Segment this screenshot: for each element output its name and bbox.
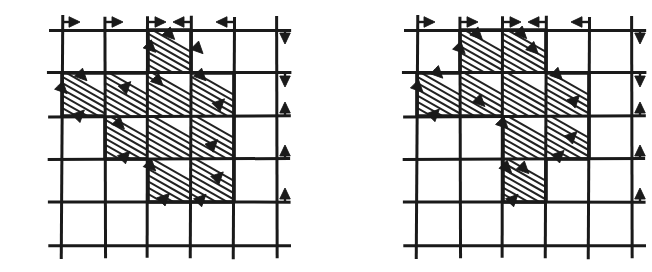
right-arrow-up-4 bbox=[635, 145, 646, 156]
right-diagram-canvas bbox=[326, 0, 652, 272]
grid-line-vertical-0 bbox=[416, 15, 418, 259]
right-arrow-up-3 bbox=[635, 102, 646, 113]
top-arrow-left-5 bbox=[216, 17, 227, 28]
figure-root bbox=[0, 0, 652, 272]
top-arrow-right-1 bbox=[424, 17, 435, 28]
right-arrow-down-1 bbox=[280, 33, 291, 44]
right-arrow-up-5 bbox=[635, 188, 646, 199]
grid-line-vertical-5 bbox=[277, 16, 278, 258]
top-arrow-right-3 bbox=[510, 17, 521, 28]
top-arrow-right-3 bbox=[155, 17, 166, 28]
left-diagram-canvas bbox=[0, 0, 326, 272]
right-arrow-down-1 bbox=[635, 33, 646, 44]
top-arrow-right-2 bbox=[112, 17, 123, 28]
top-arrow-left-4 bbox=[528, 17, 539, 28]
right-arrow-down-2 bbox=[635, 76, 646, 87]
top-arrow-right-1 bbox=[69, 17, 80, 28]
right-arrow-up-4 bbox=[280, 145, 291, 156]
top-arrow-left-4 bbox=[173, 17, 184, 28]
right-arrow-up-5 bbox=[280, 188, 291, 199]
top-arrow-right-2 bbox=[467, 17, 478, 28]
left-grid-diagram bbox=[0, 0, 326, 272]
grid-line-horizontal-3 bbox=[48, 158, 290, 159]
grid-line-vertical-5 bbox=[632, 16, 633, 258]
grid-line-horizontal-3 bbox=[403, 158, 645, 159]
grid-line-vertical-0 bbox=[61, 15, 63, 259]
top-arrow-left-5 bbox=[571, 17, 582, 28]
right-grid-diagram bbox=[326, 0, 652, 272]
hatch-layer bbox=[0, 28, 282, 208]
right-arrow-down-2 bbox=[280, 76, 291, 87]
right-arrow-up-3 bbox=[280, 102, 291, 113]
